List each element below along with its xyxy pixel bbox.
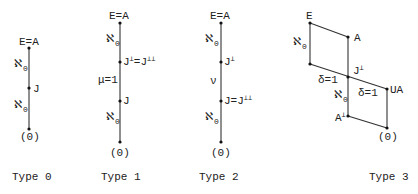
- diagram-type-3: E A J⊥ UA A⊥ (0) ℵ0 δ=1 δ=1 ℵ0 Type 3: [293, 10, 409, 183]
- type3-edge-delta-right: δ=1: [358, 87, 378, 99]
- type3-edge-aperp-zero: [348, 116, 387, 128]
- diagram-type-0: E=A J (0) ℵ0 ℵ0 Type 0: [12, 36, 52, 183]
- type3-edge-delta-left: δ=1: [318, 74, 338, 86]
- type0-node-j: [27, 86, 30, 89]
- type2-label-jperp: J⊥: [224, 55, 235, 68]
- type3-node-aperp: [346, 114, 349, 117]
- type2-node-jperp: [219, 60, 222, 63]
- type1-node-zero: [118, 140, 121, 143]
- type2-label-zero: (0): [211, 147, 231, 159]
- type1-edge-middle: μ=1: [98, 74, 118, 86]
- type3-node-a: [346, 35, 349, 38]
- type2-edge-lower: ℵ0: [205, 111, 219, 126]
- type1-node-j: [118, 99, 121, 102]
- type0-label-top: E=A: [19, 36, 39, 48]
- type3-edge-e-a: [310, 23, 348, 37]
- type0-label-j: J: [33, 83, 40, 95]
- diagram-type-2: E=A J⊥ J=J⊥⊥ (0) ℵ0 ν ℵ0 Type 2: [199, 10, 252, 183]
- type0-label-zero: (0): [20, 131, 40, 143]
- diagram-type-1: E=A J⊥=J⊥⊥ J (0) ℵ0 μ=1 ℵ0 Type 1: [98, 10, 155, 183]
- type3-label-ua: UA: [390, 84, 404, 96]
- type3-edge-center-label: ℵ0: [334, 89, 348, 104]
- type3-label-e: E: [306, 10, 313, 22]
- type2-caption: Type 2: [199, 171, 239, 183]
- type3-edge-left-label: ℵ0: [293, 36, 307, 51]
- type3-caption: Type 3: [369, 171, 409, 183]
- type2-edge-middle: ν: [210, 75, 217, 87]
- type1-label-zero: (0): [110, 147, 130, 159]
- type1-label-jperp: J⊥=J⊥⊥: [123, 55, 155, 68]
- type2-label-top: E=A: [210, 10, 230, 22]
- type1-edge-upper: ℵ0: [106, 33, 120, 48]
- type0-edge-upper: ℵ0: [14, 58, 28, 73]
- type2-node-j: [219, 99, 222, 102]
- type2-node-zero: [219, 140, 222, 143]
- type3-node-ua: [385, 87, 388, 90]
- type3-label-jperp: J⊥: [353, 64, 364, 77]
- type3-label-zero: (0): [378, 131, 398, 143]
- type1-node-jperp: [118, 60, 121, 63]
- type3-node-left: [308, 62, 311, 65]
- type3-label-a: A: [354, 32, 361, 44]
- type1-caption: Type 1: [101, 171, 141, 183]
- type3-node-jperp: [346, 75, 349, 78]
- type2-label-j: J=J⊥⊥: [224, 94, 252, 107]
- type1-edge-lower: ℵ0: [106, 111, 120, 126]
- type1-label-j: J: [123, 95, 130, 107]
- type3-label-aperp: A⊥: [335, 111, 346, 124]
- type0-caption: Type 0: [12, 171, 52, 183]
- type3-node-zero: [385, 126, 388, 129]
- type2-edge-upper: ℵ0: [205, 33, 219, 48]
- type0-edge-lower: ℵ0: [14, 99, 28, 114]
- lattice-diagrams: E=A J (0) ℵ0 ℵ0 Type 0 E=A J⊥=J⊥⊥ J (0) …: [0, 0, 418, 194]
- type1-label-top: E=A: [109, 10, 129, 22]
